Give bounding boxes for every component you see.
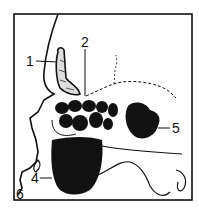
- label-4: 4: [31, 170, 39, 186]
- face-profile: [18, 14, 58, 195]
- sphenoid-sinus: [126, 103, 160, 139]
- ethmoid-cells: [55, 100, 118, 131]
- crista-line: [114, 55, 117, 84]
- pharynx-contour: [176, 170, 186, 191]
- palate-line: [102, 146, 182, 154]
- maxillary-sinus: [51, 137, 102, 195]
- sinus-diagram: 1 2 4 5 6: [0, 0, 199, 211]
- cranial-base-line: [86, 81, 176, 98]
- label-6: 6: [16, 186, 24, 202]
- label-2: 2: [81, 34, 89, 50]
- label-1: 1: [26, 53, 34, 69]
- frontal-sinus: [56, 48, 80, 95]
- lower-contour: [96, 162, 170, 196]
- label-5: 5: [172, 120, 180, 136]
- leader-1: [36, 61, 57, 62]
